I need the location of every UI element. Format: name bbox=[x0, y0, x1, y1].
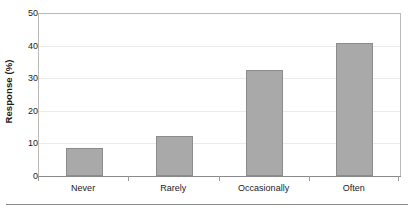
bar-occasionally[interactable] bbox=[246, 70, 283, 176]
x-tick-mark bbox=[128, 176, 129, 181]
y-tick-label: 10 bbox=[8, 138, 38, 148]
plot-area bbox=[38, 13, 401, 176]
x-tick-mark bbox=[38, 176, 39, 181]
bar-rarely[interactable] bbox=[156, 136, 193, 176]
bar-often[interactable] bbox=[336, 43, 373, 176]
y-tick-label: 30 bbox=[8, 73, 38, 83]
y-tick-label: 50 bbox=[8, 8, 38, 18]
x-tick-mark bbox=[309, 176, 310, 181]
x-tick-label-rarely: Rarely bbox=[160, 183, 186, 193]
bar-slot bbox=[310, 13, 400, 176]
x-tick-mark bbox=[219, 176, 220, 181]
bottom-divider bbox=[6, 204, 408, 205]
x-tick-label-often: Often bbox=[343, 183, 365, 193]
y-tick-label: 0 bbox=[8, 171, 38, 181]
bar-slot bbox=[129, 13, 219, 176]
y-tick-label: 40 bbox=[8, 41, 38, 51]
x-axis-ticks: NeverRarelyOccasionallyOften bbox=[38, 176, 401, 198]
x-tick-label-occasionally: Occasionally bbox=[238, 183, 289, 193]
x-tick-label-never: Never bbox=[71, 183, 95, 193]
y-axis-ticks: 01020304050 bbox=[0, 13, 38, 176]
x-tick-mark bbox=[398, 176, 399, 181]
bar-slot bbox=[39, 13, 129, 176]
bar-slot bbox=[220, 13, 310, 176]
bar-never[interactable] bbox=[66, 148, 103, 176]
y-tick-label: 20 bbox=[8, 106, 38, 116]
bar-chart-figure: Response (%) 01020304050 NeverRarelyOcca… bbox=[0, 0, 414, 212]
